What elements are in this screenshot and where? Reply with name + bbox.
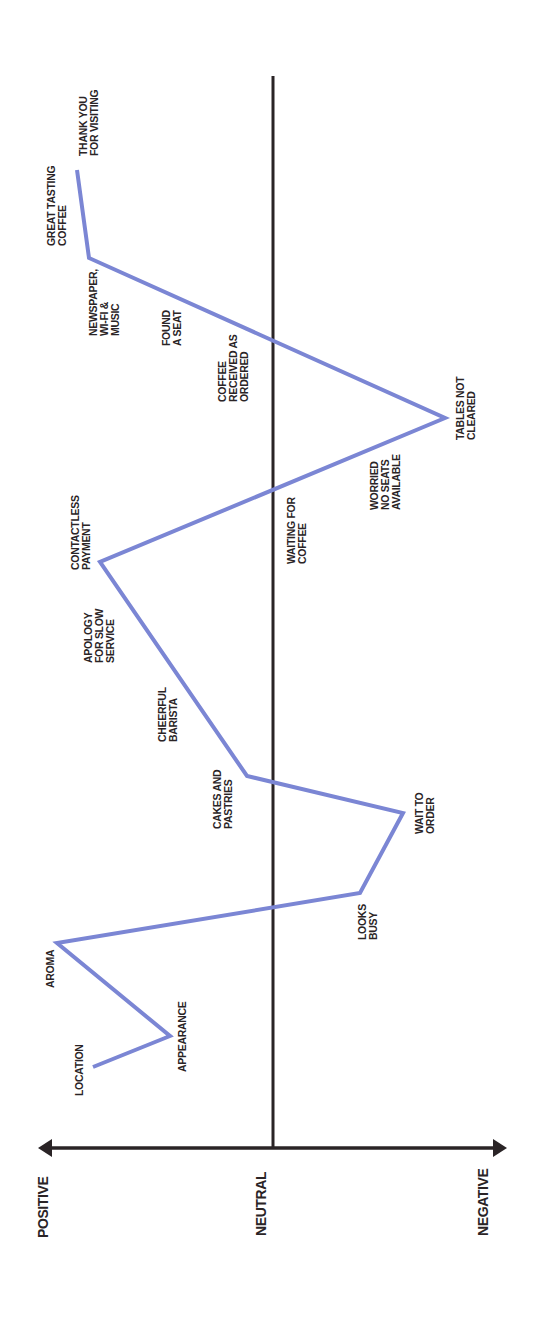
label-apology-for-slow-service: APOLOGY FOR SLOW SERVICE — [82, 608, 116, 663]
label-found-a-seat: FOUND A SEAT — [160, 309, 183, 346]
svg-text:SERVICE: SERVICE — [104, 619, 116, 663]
negative-arrowhead-icon — [493, 1139, 507, 1157]
svg-text:COFFEE: COFFEE — [296, 523, 308, 564]
svg-text:ORDERED: ORDERED — [238, 351, 250, 402]
svg-text:A SEAT: A SEAT — [171, 310, 183, 346]
label-cakes-and-pastries: CAKES AND PASTRIES — [211, 769, 234, 829]
svg-text:BARISTA: BARISTA — [167, 697, 179, 742]
svg-text:PASTRIES: PASTRIES — [222, 779, 234, 829]
svg-text:FOR VISITING: FOR VISITING — [88, 89, 100, 156]
label-worried-no-seats: WORRIED NO SEATS AVAILABLE — [368, 454, 402, 510]
label-appearance: APPEARANCE — [176, 1001, 188, 1072]
label-contactless-payment: CONTACTLESS PAYMENT — [69, 495, 92, 570]
label-aroma: AROMA — [44, 949, 56, 988]
journey-map-diagram: POSITIVE NEUTRAL NEGATIVE LOCATION APPEA… — [0, 0, 551, 1334]
svg-text:BUSY: BUSY — [367, 912, 379, 940]
axis-label-negative: NEGATIVE — [475, 1169, 491, 1236]
label-tables-not-cleared: TABLES NOT CLEARED — [454, 376, 477, 440]
svg-text:LOCATION: LOCATION — [73, 1044, 85, 1096]
label-newspaper-wifi-music: NEWSPAPER, WI-FI & MUSIC — [87, 269, 121, 336]
label-great-tasting-coffee: GREAT TASTING COFFEE — [45, 166, 68, 246]
svg-text:APPEARANCE: APPEARANCE — [176, 1001, 188, 1072]
svg-text:PAYMENT: PAYMENT — [80, 522, 92, 570]
label-coffee-received: COFFEE RECEIVED AS ORDERED — [216, 334, 250, 402]
axis-label-neutral: NEUTRAL — [253, 1171, 269, 1236]
positive-arrowhead-icon — [38, 1139, 52, 1157]
axis-label-positive: POSITIVE — [35, 1177, 51, 1238]
svg-text:MUSIC: MUSIC — [109, 303, 121, 336]
svg-text:COFFEE: COFFEE — [56, 205, 68, 246]
svg-text:ORDER: ORDER — [424, 797, 436, 834]
label-wait-to-order: WAIT TO ORDER — [413, 792, 436, 834]
label-location: LOCATION — [73, 1044, 85, 1096]
label-looks-busy: LOOKS BUSY — [356, 904, 379, 940]
label-thank-you-for-visiting: THANK YOU FOR VISITING — [77, 89, 100, 156]
label-cheerful-barista: CHEERFUL BARISTA — [156, 686, 179, 742]
svg-text:CLEARED: CLEARED — [465, 391, 477, 440]
svg-text:AVAILABLE: AVAILABLE — [390, 454, 402, 510]
label-waiting-for-coffee: WAITING FOR COFFEE — [285, 497, 308, 564]
svg-text:AROMA: AROMA — [44, 949, 56, 988]
